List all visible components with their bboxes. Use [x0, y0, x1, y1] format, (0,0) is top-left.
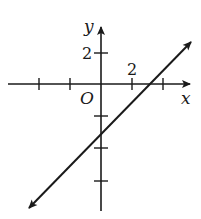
origin-label: O: [80, 88, 94, 108]
plotted-line: [29, 42, 191, 208]
y-tick-label-2: 2: [82, 44, 92, 63]
x-tick-label-2: 2: [127, 60, 137, 79]
x-axis-label: x: [181, 88, 191, 108]
y-axis-label: y: [83, 16, 94, 36]
coordinate-graph: y x O 2 2: [0, 0, 201, 219]
